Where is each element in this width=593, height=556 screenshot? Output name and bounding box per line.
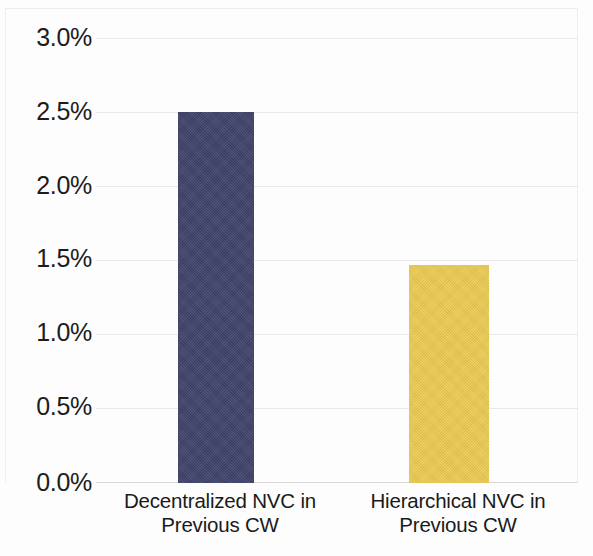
y-tick-label-1-5: 1.5% [6, 246, 92, 271]
gridline-1-5 [96, 260, 578, 261]
gridline-0-5 [96, 408, 578, 409]
y-axis: 3.0% 2.5% 2.0% 1.5% 1.0% 0.5% 0.0% [0, 0, 92, 556]
x-tick-label-hierarchical: Hierarchical NVC in Previous CW [330, 489, 586, 537]
y-tick-label-2-0: 2.0% [6, 173, 92, 198]
y-tick-label-0-0: 0.0% [6, 470, 92, 495]
gridline-3-0 [96, 38, 578, 39]
gridline-2-5 [96, 112, 578, 113]
bar-hierarchical-nvc [409, 265, 489, 483]
bar-decentralized-nvc [178, 112, 254, 483]
gridline-2-0 [96, 186, 578, 187]
bar-chart: 3.0% 2.5% 2.0% 1.5% 1.0% 0.5% 0.0% Decen… [0, 0, 593, 556]
x-tick-label-decentralized: Decentralized NVC in Previous CW [86, 489, 354, 537]
gridline-1-0 [96, 334, 578, 335]
gridline-baseline-0-0 [96, 482, 578, 483]
y-tick-label-1-0: 1.0% [6, 320, 92, 345]
y-tick-label-2-5: 2.5% [6, 99, 92, 124]
y-tick-label-3-0: 3.0% [6, 25, 92, 50]
plot-area [96, 38, 578, 483]
y-tick-label-0-5: 0.5% [6, 394, 92, 419]
